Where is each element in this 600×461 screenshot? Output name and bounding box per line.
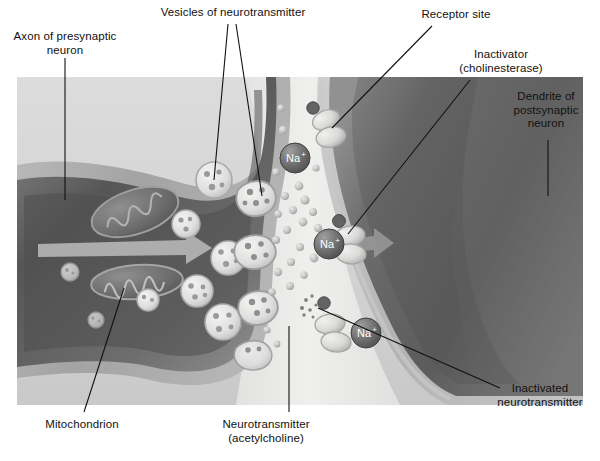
label-neurotransmitter-acetylcholine: Neurotransmitter (acetylcholine) [204, 418, 328, 445]
sodium-ion-charge: + [335, 236, 340, 245]
label-inactivated-neurotransmitter: Inactivated neurotransmitter [484, 382, 596, 409]
vesicle [181, 275, 213, 307]
label-dendrite-of-postsynaptic-neuron: Dendrite of postsynaptic neuron [498, 90, 594, 131]
bound-neurotransmitter [318, 297, 330, 309]
sodium-ion-charge: + [301, 150, 306, 159]
label-axon-of-presynaptic-neuron: Axon of presynaptic neuron [6, 30, 124, 57]
vesicle [205, 304, 241, 340]
figure-canvas: Na+Na+Na+ Axon of presynaptic neuron Ves… [0, 0, 600, 461]
sodium-ion-2: Na+ [314, 229, 344, 259]
vesicle-fusing [236, 181, 276, 216]
label-inactivator-cholinesterase: Inactivator (cholinesterase) [446, 48, 556, 75]
label-mitochondrion: Mitochondrion [32, 418, 132, 432]
sodium-ion-3: Na+ [351, 318, 381, 348]
label-receptor-site: Receptor site [408, 8, 504, 22]
vesicle [172, 210, 200, 238]
vesicle [88, 312, 104, 328]
vesicle-fusing [234, 235, 275, 269]
sodium-ion-1: Na+ [280, 143, 310, 173]
bound-neurotransmitter [333, 215, 346, 228]
sodium-ion-label: Na [320, 238, 335, 250]
label-vesicles-of-neurotransmitter: Vesicles of neurotransmitter [138, 6, 328, 20]
vesicle [137, 289, 159, 311]
vesicle [61, 263, 79, 281]
vesicle-fusing [238, 291, 278, 325]
bound-neurotransmitter [307, 102, 319, 114]
vesicle-fusing [234, 341, 272, 370]
sodium-ion-label: Na [286, 152, 301, 164]
